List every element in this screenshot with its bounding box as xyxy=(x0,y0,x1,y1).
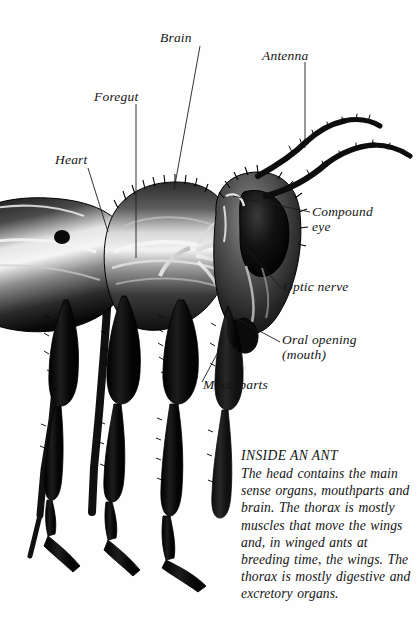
label-brain: Brain xyxy=(160,30,192,45)
near-legs xyxy=(44,296,243,592)
label-heart-text: Heart xyxy=(55,152,88,167)
label-compound-eye-text2: eye xyxy=(312,219,404,234)
label-compound-eye: Compound eye xyxy=(312,204,404,234)
figure-page: Heart Foregut Brain Antenna Compound eye… xyxy=(0,0,417,623)
label-mouthparts-text: Mouthparts xyxy=(203,377,268,392)
label-compound-eye-text: Compound xyxy=(312,204,404,219)
label-mouthparts: Mouthparts xyxy=(203,377,268,392)
label-optic-nerve-text: Optic nerve xyxy=(283,279,349,294)
label-antenna-text: Antenna xyxy=(262,48,308,63)
label-brain-text: Brain xyxy=(160,30,192,45)
label-antenna: Antenna xyxy=(262,48,308,63)
label-oral-opening-text: Oral opening xyxy=(282,332,392,347)
label-heart: Heart xyxy=(55,152,88,167)
label-optic-nerve: Optic nerve xyxy=(283,279,349,294)
label-foregut-text: Foregut xyxy=(94,89,138,104)
caption-title: INSIDE AN ANT xyxy=(241,447,413,464)
label-oral-opening: Oral opening (mouth) xyxy=(282,332,392,362)
caption-body: The head contains the main sense organs,… xyxy=(241,465,413,603)
caption-block: INSIDE AN ANT The head contains the main… xyxy=(241,447,413,603)
label-oral-opening-text2: (mouth) xyxy=(282,347,392,362)
leader-brain xyxy=(174,46,200,190)
label-foregut: Foregut xyxy=(94,89,138,104)
